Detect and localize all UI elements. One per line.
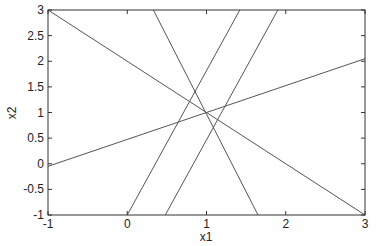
x-tick-label: 3 [362,217,369,231]
y-tick-label: 0.5 [27,131,44,145]
x-tick-label: -1 [43,217,54,231]
y-tick-label: 1 [37,106,44,120]
x-axis-label: x1 [200,230,213,244]
line-3 [153,10,258,215]
x-tick-label: 0 [124,217,131,231]
line-4 [127,10,240,215]
x-tick-label: 2 [282,217,289,231]
plot-lines [48,10,365,215]
y-axis-ticks: -1-0.500.511.522.53 [23,3,365,222]
line-2 [48,59,365,167]
y-tick-label: 2 [37,54,44,68]
y-tick-label: -1 [33,208,44,222]
y-tick-label: 0 [37,157,44,171]
y-tick-label: 3 [37,3,44,17]
x-axis-ticks: -10123 [43,10,369,231]
x-tick-label: 1 [203,217,210,231]
chart: -10123 -1-0.500.511.522.53 x1 x2 [0,0,377,246]
y-tick-label: -0.5 [23,182,44,196]
y-tick-label: 2.5 [27,29,44,43]
line-5 [165,10,278,215]
y-tick-label: 1.5 [27,80,44,94]
y-axis-label: x2 [5,106,19,119]
